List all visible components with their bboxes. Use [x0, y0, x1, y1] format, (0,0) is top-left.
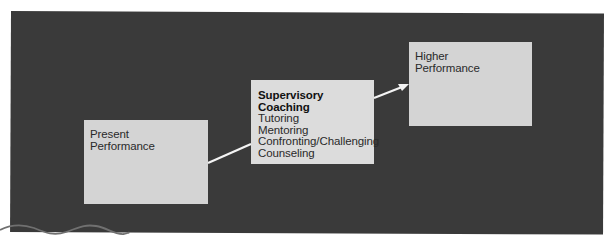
node-label: Present — [90, 129, 202, 141]
node-label: Higher — [415, 51, 526, 63]
node-item-tutoring: Tutoring — [258, 113, 368, 125]
node-label: Performance — [90, 141, 202, 153]
node-present-performance: Present Performance — [84, 120, 208, 204]
node-item-confronting-challenging: Confronting/Challenging — [258, 136, 368, 148]
node-title: Supervisory — [258, 90, 368, 102]
node-supervisory-coaching: Supervisory Coaching Tutoring Mentoring … — [251, 80, 374, 164]
node-item-counseling: Counseling — [258, 148, 368, 160]
node-higher-performance: Higher Performance — [409, 42, 532, 126]
node-label: Performance — [415, 63, 526, 75]
